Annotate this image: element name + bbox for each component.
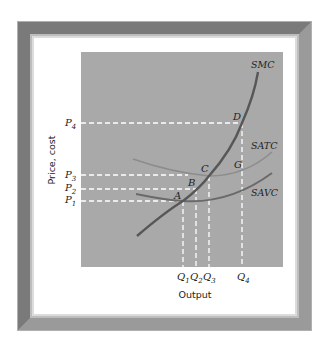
q4-tick: Q4 bbox=[237, 271, 250, 285]
point-d-label: D bbox=[232, 111, 241, 122]
point-a-label: A bbox=[173, 190, 181, 201]
x-axis-title: Output bbox=[179, 289, 212, 300]
y-tick-labels: P4 P3 P2 P1 bbox=[64, 117, 77, 208]
p3-tick: P3 bbox=[64, 169, 77, 183]
q1-tick: Q1 bbox=[177, 271, 190, 285]
smc-label: SMC bbox=[251, 59, 275, 70]
savc-label: SAVC bbox=[251, 187, 279, 198]
y-axis-title: Price, cost bbox=[46, 135, 57, 184]
p1-tick: P1 bbox=[64, 194, 76, 208]
point-g-label: G bbox=[234, 159, 242, 170]
q2-tick: Q2 bbox=[190, 271, 203, 285]
point-c-label: C bbox=[201, 163, 209, 174]
q3-tick: Q3 bbox=[203, 271, 216, 285]
satc-label: SATC bbox=[251, 140, 278, 151]
point-b-label: B bbox=[187, 177, 195, 188]
plot-area bbox=[81, 52, 283, 267]
cost-curves-chart: SMC SATC SAVC A B C D G P4 P3 P2 P1 Q1 Q… bbox=[0, 0, 327, 347]
x-tick-labels: Q1 Q2 Q3 Q4 bbox=[177, 271, 250, 285]
p4-tick: P4 bbox=[64, 117, 76, 131]
